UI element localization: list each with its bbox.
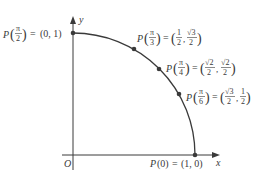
point-p-pi-2 bbox=[71, 31, 76, 36]
svg-text:=: = bbox=[30, 28, 36, 39]
svg-text:1: 1 bbox=[177, 28, 181, 37]
svg-text:(: ( bbox=[173, 61, 178, 77]
svg-text:2: 2 bbox=[177, 38, 181, 47]
svg-text:(0, 1): (0, 1) bbox=[40, 28, 62, 40]
point-p0 bbox=[193, 153, 198, 158]
label-p-pi-6: P ( π 6 ) = ( √3 2 , 1 2 ) bbox=[185, 87, 251, 106]
svg-text:): ) bbox=[205, 90, 210, 106]
svg-text:): ) bbox=[246, 90, 251, 106]
svg-text:P: P bbox=[149, 158, 156, 169]
svg-text:): ) bbox=[197, 31, 202, 47]
svg-text:6: 6 bbox=[199, 97, 203, 106]
svg-text:): ) bbox=[22, 27, 27, 43]
svg-text:P: P bbox=[136, 33, 143, 44]
svg-text:2: 2 bbox=[241, 97, 245, 106]
svg-text:): ) bbox=[231, 61, 236, 77]
svg-text:(: ( bbox=[144, 31, 149, 47]
label-p-pi-3: P ( π 3 ) = ( 1 2 , √3 2 ) bbox=[136, 28, 202, 47]
origin-label: O bbox=[64, 158, 71, 169]
svg-text:2: 2 bbox=[207, 68, 211, 77]
svg-text:(: ( bbox=[171, 31, 176, 47]
x-axis-label: x bbox=[215, 157, 221, 168]
svg-text:=: = bbox=[163, 32, 169, 43]
svg-text:(: ( bbox=[193, 90, 198, 106]
unit-circle-diagram: y x O P ( π 2 ) = (0, 1) P ( π 3 ) = ( 1… bbox=[0, 0, 268, 180]
label-p0: P (0) = (1, 0) bbox=[149, 158, 203, 170]
point-p-pi-6 bbox=[177, 92, 182, 97]
y-axis-label: y bbox=[78, 14, 84, 25]
svg-text:π: π bbox=[179, 58, 183, 67]
svg-text:√3: √3 bbox=[225, 87, 233, 96]
svg-text:√2: √2 bbox=[205, 58, 213, 67]
svg-text:(0): (0) bbox=[157, 158, 169, 170]
point-p-pi-3 bbox=[132, 47, 137, 52]
svg-text:P: P bbox=[185, 92, 192, 103]
point-p-pi-4 bbox=[157, 67, 162, 72]
svg-text:2: 2 bbox=[227, 97, 231, 106]
svg-text:3: 3 bbox=[150, 38, 154, 47]
svg-text:π: π bbox=[16, 24, 20, 33]
svg-text:): ) bbox=[185, 61, 190, 77]
svg-text:√3: √3 bbox=[187, 28, 195, 37]
label-p-pi-2: P ( π 2 ) = (0, 1) bbox=[2, 24, 62, 43]
svg-text:1: 1 bbox=[241, 87, 245, 96]
svg-text:π: π bbox=[150, 28, 154, 37]
svg-text:P: P bbox=[165, 63, 172, 74]
y-axis-arrow-icon bbox=[70, 16, 76, 24]
svg-text:(: ( bbox=[10, 27, 15, 43]
svg-text:,: , bbox=[216, 64, 218, 74]
svg-text:=: = bbox=[212, 91, 218, 102]
svg-text:(1, 0): (1, 0) bbox=[181, 158, 203, 170]
svg-text:P: P bbox=[2, 29, 9, 40]
svg-text:2: 2 bbox=[16, 34, 20, 43]
svg-text:4: 4 bbox=[179, 68, 183, 77]
svg-text:=: = bbox=[192, 62, 198, 73]
label-p-pi-4: P ( π 4 ) = ( √2 2 , √2 2 ) bbox=[165, 58, 236, 77]
svg-text:): ) bbox=[156, 31, 161, 47]
svg-text:=: = bbox=[172, 158, 178, 169]
svg-text:2: 2 bbox=[223, 68, 227, 77]
svg-text:,: , bbox=[183, 34, 185, 44]
svg-text:2: 2 bbox=[189, 38, 193, 47]
svg-text:√2: √2 bbox=[221, 58, 229, 67]
svg-text:,: , bbox=[236, 93, 238, 103]
svg-text:π: π bbox=[199, 87, 203, 96]
